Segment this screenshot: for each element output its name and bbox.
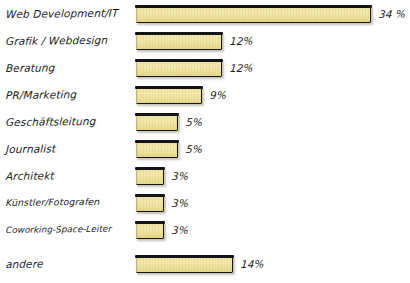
- category-label: Grafik / Webdesign: [5, 27, 130, 53]
- bar-fill: [136, 168, 164, 185]
- category-label: Web Development/IT: [5, 0, 130, 26]
- bar-fill: [136, 222, 164, 239]
- bar-fill: [136, 60, 222, 77]
- value-label: 12%: [229, 56, 254, 80]
- bar: [136, 60, 222, 77]
- bar: [136, 256, 233, 273]
- bar: [136, 114, 178, 131]
- value-label: 5%: [185, 110, 203, 134]
- category-label: PR/Marketing: [5, 81, 130, 107]
- chart-row: PR/Marketing9%: [0, 83, 410, 107]
- category-label: Künstler/Fotografen: [5, 189, 130, 215]
- bar: [136, 195, 164, 212]
- chart-row: Grafik / Webdesign12%: [0, 29, 410, 53]
- bar: [136, 222, 164, 239]
- category-label: Architekt: [5, 162, 130, 188]
- bar: [136, 141, 178, 158]
- chart-row: Beratung12%: [0, 56, 410, 80]
- value-label: 3%: [171, 191, 189, 215]
- chart-row: andere14%: [0, 252, 410, 276]
- bar: [136, 168, 164, 185]
- bar-fill: [136, 141, 178, 158]
- bar-fill: [136, 6, 371, 23]
- category-label: Beratung: [5, 54, 130, 80]
- chart-row: Web Development/IT34 %: [0, 2, 410, 26]
- value-label: 14%: [240, 252, 265, 276]
- bar: [136, 6, 371, 23]
- bar: [136, 33, 222, 50]
- bar-fill: [136, 87, 202, 104]
- category-label: Journalist: [5, 135, 130, 161]
- chart-row: Geschäftsleitung5%: [0, 110, 410, 134]
- value-label: 9%: [209, 83, 227, 107]
- chart-row: Künstler/Fotografen3%: [0, 191, 410, 215]
- bar-fill: [136, 256, 233, 273]
- chart-row: Coworking-Space-Leiter3%: [0, 218, 410, 242]
- value-label: 5%: [185, 137, 203, 161]
- bar-fill: [136, 114, 178, 131]
- value-label: 12%: [229, 29, 254, 53]
- bar: [136, 87, 202, 104]
- value-label: 34 %: [378, 2, 406, 26]
- bar-fill: [136, 195, 164, 212]
- chart-row: Architekt3%: [0, 164, 410, 188]
- category-label: Geschäftsleitung: [5, 108, 130, 134]
- chart-row: Journalist5%: [0, 137, 410, 161]
- value-label: 3%: [171, 218, 189, 242]
- bar-fill: [136, 33, 222, 50]
- bar-chart: Web Development/IT34 %Grafik / Webdesign…: [0, 0, 410, 283]
- category-label: Coworking-Space-Leiter: [5, 216, 130, 242]
- value-label: 3%: [171, 164, 189, 188]
- category-label: andere: [5, 250, 130, 276]
